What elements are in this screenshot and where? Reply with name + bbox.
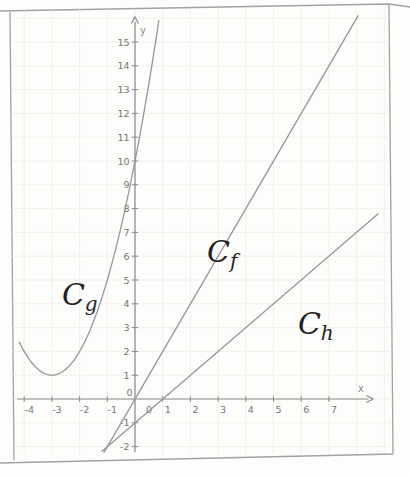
y-tick-label: -2 xyxy=(120,441,129,452)
scan-frame xyxy=(0,4,410,463)
tick-labels: -4-3-2-11234567151413121110987654321-1-2… xyxy=(24,25,364,452)
y-tick-label: 2 xyxy=(123,346,129,357)
y-tick-label: 10 xyxy=(117,156,129,167)
curve-label-subscript: f xyxy=(228,249,241,273)
curve-label-base: C xyxy=(207,234,230,269)
x-tick-label: 6 xyxy=(303,404,309,415)
y-tick-label: 15 xyxy=(117,37,129,48)
x-tick-label: 2 xyxy=(192,404,198,415)
origin-y-label: 0 xyxy=(126,387,132,398)
x-tick-label: -4 xyxy=(24,404,33,415)
y-tick-label: 1 xyxy=(123,370,129,381)
curve-label-cg: Cg xyxy=(62,277,98,316)
x-tick-label: -2 xyxy=(80,404,89,415)
frame-top-border xyxy=(0,4,410,11)
curve-label-subscript: g xyxy=(85,292,98,316)
x-tick-label: 3 xyxy=(220,404,226,415)
frame-left-border xyxy=(10,12,14,460)
curve-label-base: C xyxy=(62,277,85,312)
plot-area: -4-3-2-11234567151413121110987654321-1-2… xyxy=(12,9,390,454)
x-axis-letter: x xyxy=(358,383,364,394)
x-tick-label: 1 xyxy=(165,404,171,415)
curve-cg xyxy=(19,21,159,376)
y-axis-letter: y xyxy=(140,25,146,36)
function-graph: -4-3-2-11234567151413121110987654321-1-2… xyxy=(0,0,410,478)
y-tick-label: 3 xyxy=(123,322,129,333)
x-tick-label: 7 xyxy=(331,404,337,415)
y-tick-label: 5 xyxy=(123,275,129,286)
y-tick-label: 12 xyxy=(117,108,129,119)
y-tick-label: 7 xyxy=(123,227,129,238)
curve-cf xyxy=(104,16,358,453)
curve-label-subscript: h xyxy=(321,321,334,345)
curve-label-base: C xyxy=(298,306,321,341)
frame-right-border xyxy=(389,4,393,454)
y-tick-label: 14 xyxy=(117,60,129,71)
x-tick-label: -3 xyxy=(52,404,61,415)
curve-ch xyxy=(102,214,378,452)
curve-label-cf: Cf xyxy=(207,234,241,273)
grid xyxy=(12,9,390,454)
y-tick-label: 11 xyxy=(117,132,129,143)
x-tick-label: 5 xyxy=(275,404,281,415)
y-tick-label: 9 xyxy=(123,179,129,190)
x-tick-label: -1 xyxy=(108,404,117,415)
frame-bottom-border xyxy=(0,454,393,463)
y-tick-label: 13 xyxy=(117,84,129,95)
curve-label-ch: Ch xyxy=(298,306,334,345)
scanned-worksheet-cell: -4-3-2-11234567151413121110987654321-1-2… xyxy=(0,0,410,478)
curves xyxy=(19,16,378,453)
x-tick-label: 4 xyxy=(248,404,254,415)
y-tick-label: 4 xyxy=(123,298,129,309)
tick-marks xyxy=(24,42,329,447)
y-tick-label: 6 xyxy=(123,251,129,262)
